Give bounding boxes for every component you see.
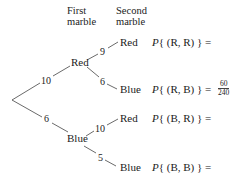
weight-blue-red: 10 bbox=[95, 123, 105, 134]
prob-symbol: P bbox=[152, 112, 159, 124]
prob-expr: { (R, B) } = bbox=[159, 83, 212, 95]
fraction-denominator: 240 bbox=[218, 89, 229, 97]
header-second-line1: Second bbox=[116, 5, 147, 16]
header-second-line2: marble bbox=[116, 16, 147, 27]
header-second-marble: Second marble bbox=[116, 5, 147, 27]
prob-rb: P{ (R, B) } = bbox=[152, 84, 211, 95]
leaf-blue-blue: Blue bbox=[120, 162, 141, 173]
weight-blue-first: 6 bbox=[44, 113, 49, 124]
weight-red-blue: 6 bbox=[100, 76, 105, 87]
header-first-marble: First marble bbox=[67, 5, 96, 27]
prob-symbol: P bbox=[152, 36, 159, 48]
weight-red-first: 10 bbox=[41, 75, 51, 86]
header-first-line2: marble bbox=[67, 16, 96, 27]
node-blue-first: Blue bbox=[67, 133, 88, 144]
leaf-red-red: Red bbox=[120, 37, 138, 48]
node-red-first: Red bbox=[71, 57, 89, 68]
prob-symbol: P bbox=[152, 83, 159, 95]
prob-expr: { (B, B) } = bbox=[159, 161, 212, 173]
prob-rr: P{ (R, R) } = bbox=[152, 37, 211, 48]
prob-rb-fraction: 60 240 bbox=[218, 80, 229, 97]
prob-bb: P{ (B, B) } = bbox=[152, 162, 211, 173]
header-first-line1: First bbox=[67, 5, 96, 16]
prob-expr: { (B, R) } = bbox=[159, 112, 212, 124]
prob-symbol: P bbox=[152, 161, 159, 173]
leaf-red-blue: Blue bbox=[120, 84, 141, 95]
weight-red-red: 9 bbox=[100, 46, 105, 57]
prob-expr: { (R, R) } = bbox=[159, 36, 212, 48]
prob-br: P{ (B, R) } = bbox=[152, 113, 211, 124]
weight-blue-blue: 5 bbox=[98, 152, 103, 163]
leaf-blue-red: Red bbox=[120, 113, 138, 124]
